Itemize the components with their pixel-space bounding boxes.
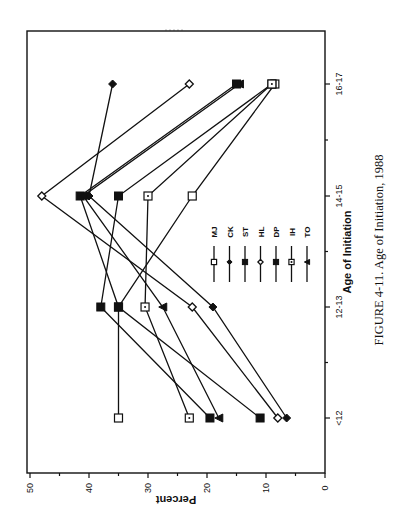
data-point-ck	[109, 80, 117, 88]
legend-label: DP	[272, 226, 281, 238]
x-tick-label: 14-15	[334, 184, 344, 207]
series-group	[38, 80, 291, 422]
legend-label: TO	[303, 227, 312, 238]
figure-caption: FIGURE 4-11. Age of Initiation, 1988	[372, 155, 386, 346]
data-point-ck	[283, 414, 291, 422]
series-line-dp	[101, 84, 272, 418]
data-point-ih	[185, 414, 193, 422]
legend-marker	[258, 259, 263, 264]
x-tick-label: 16-17	[334, 72, 344, 95]
legend-label: CK	[226, 226, 235, 238]
legend-item-ck: CK	[226, 226, 235, 282]
data-point-dp	[206, 414, 214, 422]
legend-item-dp: DP	[272, 226, 281, 282]
legend-item-mj: MJ	[210, 226, 219, 282]
data-point-ih	[144, 192, 152, 200]
data-point-ih	[141, 303, 149, 311]
y-tick-label: 50	[25, 483, 35, 493]
data-point-mj	[115, 414, 123, 422]
legend-item-hl: HL	[257, 227, 266, 282]
legend-marker	[273, 259, 278, 264]
data-point-dp	[115, 192, 123, 200]
x-axis-title: Age of Initiation	[341, 210, 353, 293]
y-tick-label: 10	[261, 483, 271, 493]
legend-item-ih: IH	[288, 228, 297, 282]
legend-label: HL	[257, 227, 266, 238]
data-point-st	[256, 414, 264, 422]
legend-marker	[242, 259, 247, 264]
legend-label: IH	[288, 228, 297, 236]
y-tick-label: 20	[202, 483, 212, 493]
chart: 01020304050 <1212-1314-1516-17 MJCKSTHLD…	[0, 0, 400, 530]
data-point-dp	[97, 303, 105, 311]
series-dp	[97, 80, 276, 422]
legend-item-to: TO	[303, 227, 312, 282]
legend: MJCKSTHLDPIHTO	[210, 226, 312, 282]
legend-item-st: ST	[241, 227, 250, 282]
data-point-ih	[268, 80, 276, 88]
x-tick-label: <12	[334, 410, 344, 425]
series-mj	[115, 80, 279, 422]
y-tick-label: 0	[320, 485, 330, 490]
legend-label: ST	[241, 227, 250, 237]
legend-marker	[289, 259, 294, 264]
legend-marker	[211, 259, 216, 264]
x-tick-label: 12-13	[334, 295, 344, 318]
y-tick-label: 40	[84, 483, 94, 493]
legend-label: MJ	[210, 226, 219, 237]
legend-marker	[227, 259, 232, 264]
y-tick-label: 30	[143, 483, 153, 493]
plot-frame	[27, 31, 325, 473]
legend-marker	[304, 259, 309, 264]
data-point-mj	[188, 192, 196, 200]
percent-axis: 01020304050	[25, 473, 330, 493]
data-point-st	[115, 303, 123, 311]
data-point-to	[215, 414, 223, 422]
y-axis-title: Percent	[155, 494, 196, 506]
